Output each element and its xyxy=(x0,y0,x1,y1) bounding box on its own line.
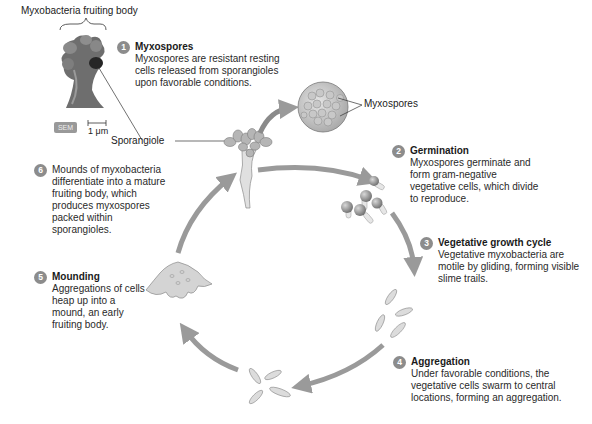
sporangiole-label: Sporangiole xyxy=(111,135,164,146)
scale-bar-label: 1 μm xyxy=(88,126,108,136)
aggregating-cells xyxy=(247,367,291,406)
step-6: 6 Mounds of myxobacteria differentiate i… xyxy=(34,164,174,236)
step-description: Myxospores are resistant resting cells r… xyxy=(135,53,287,89)
step-description: Under favorable conditions, the vegetati… xyxy=(411,368,588,404)
step-5: 5 Mounding Aggregations of cells heap up… xyxy=(34,271,146,331)
step-number-badge: 5 xyxy=(34,271,47,284)
arrow-to-mounding xyxy=(185,330,238,370)
step-heading: Myxospores xyxy=(135,41,287,53)
step-description: Mounds of myxobacteria differentiate int… xyxy=(52,164,174,236)
sem-fruiting-body-image xyxy=(61,35,104,108)
step-description: Myxospores germinate and form gram-negat… xyxy=(410,157,542,205)
step-description: Aggregations of cells heap up into a mou… xyxy=(52,283,146,331)
step-number-badge: 6 xyxy=(34,164,47,177)
step-2: 2 Germination Myxospores germinate and f… xyxy=(392,145,542,205)
fruiting-body-title: Myxobacteria fruiting body xyxy=(21,5,138,16)
step-number-badge: 2 xyxy=(392,145,405,158)
arrow-to-fruiting xyxy=(178,178,230,253)
vegetative-cells xyxy=(373,288,413,339)
arrow-to-germination xyxy=(258,168,370,180)
step-3: 3 Vegetative growth cycle Vegetative myx… xyxy=(420,237,590,285)
arrow-to-aggregation xyxy=(300,345,383,386)
step-4: 4 Aggregation Under favorable conditions… xyxy=(393,356,588,404)
myxospores-label: Myxospores xyxy=(364,98,418,109)
step-heading: Vegetative growth cycle xyxy=(438,237,590,249)
step-number-badge: 3 xyxy=(420,237,433,250)
step-heading: Aggregation xyxy=(411,356,588,368)
mound-illustration xyxy=(146,262,212,298)
arrow-to-vegetative xyxy=(392,213,414,268)
step-number-badge: 1 xyxy=(117,41,130,54)
step-number-badge: 4 xyxy=(393,356,406,369)
germinating-spores xyxy=(341,176,388,224)
step-heading: Germination xyxy=(410,145,542,157)
step-description: Vegetative myxobacteria are motile by gl… xyxy=(438,249,590,285)
myxospore-circle xyxy=(298,82,348,132)
brace xyxy=(60,18,106,30)
step-1: 1 Myxospores Myxospores are resistant re… xyxy=(117,41,287,89)
step-heading: Mounding xyxy=(52,271,146,283)
sem-badge: SEM xyxy=(54,122,77,133)
